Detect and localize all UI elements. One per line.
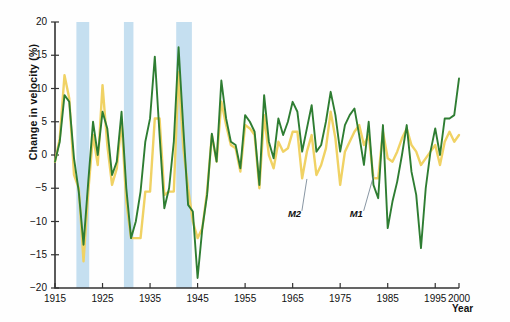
y-tick-label: 5 bbox=[21, 116, 47, 127]
x-tick-label: 1975 bbox=[320, 293, 360, 304]
y-tick-label: 20 bbox=[21, 16, 47, 27]
x-tick-label: 1925 bbox=[83, 293, 123, 304]
y-tick-label: −15 bbox=[21, 249, 47, 260]
y-tick-label: −10 bbox=[21, 216, 47, 227]
annotation-leader-line bbox=[364, 176, 374, 211]
x-tick-label: 1955 bbox=[225, 293, 265, 304]
y-tick-label: 0 bbox=[21, 149, 47, 160]
x-tick-label: 1935 bbox=[130, 293, 170, 304]
x-tick-label: 1915 bbox=[35, 293, 75, 304]
x-tick-label: 1945 bbox=[178, 293, 218, 304]
y-tick-label: 10 bbox=[21, 83, 47, 94]
series-line-m1 bbox=[55, 47, 459, 278]
series-label-m2: M2 bbox=[288, 208, 301, 219]
chart-figure: Change in velocity (%) Year 20151050−5−1… bbox=[0, 0, 510, 322]
y-tick-label: −20 bbox=[21, 282, 47, 293]
series-label-m1: M1 bbox=[350, 208, 363, 219]
annotation-leader-line bbox=[302, 179, 307, 211]
x-tick-label: 1965 bbox=[273, 293, 313, 304]
y-tick-label: −5 bbox=[21, 182, 47, 193]
recession-band bbox=[124, 22, 134, 288]
x-tick-label: 2000 bbox=[439, 293, 479, 304]
y-tick-label: 15 bbox=[21, 49, 47, 60]
x-tick-label: 1985 bbox=[368, 293, 408, 304]
chart-plot-area bbox=[0, 0, 510, 322]
